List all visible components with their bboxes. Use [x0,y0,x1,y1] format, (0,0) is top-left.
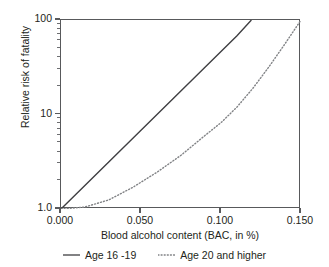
x-tick-label: 0.000 [30,214,90,226]
y-tick-label: 10 [18,107,52,119]
y-axis-title: Relative risk of fatality [15,0,31,172]
x-axis-title: Blood alcohol content (BAC, in %) [60,229,300,241]
chart-figure: Relative risk of fatality 1.010100 0.000… [0,0,329,267]
legend-label-age-16-19: Age 16 -19 [85,250,136,261]
series-line-age-16-19 [61,20,251,209]
legend-item-age-20-and-higher: Age 20 and higher [158,250,266,261]
legend-label-age-20-and-higher: Age 20 and higher [180,250,266,261]
plot-area [60,19,300,208]
legend-swatch-dotted-line-icon [158,251,175,259]
chart-legend: Age 16 -19 Age 20 and higher [0,250,329,261]
legend-swatch-solid-line-icon [63,251,80,259]
y-tick-label: 100 [18,12,52,24]
y-tick-label: 1.0 [18,201,52,213]
x-tick-label: 0.150 [270,214,329,226]
series-line-age-20-and-higher [61,20,301,209]
plot-lines [61,20,301,209]
x-tick-label: 0.050 [110,214,170,226]
legend-item-age-16-19: Age 16 -19 [63,250,136,261]
x-tick-label: 0.100 [190,214,250,226]
